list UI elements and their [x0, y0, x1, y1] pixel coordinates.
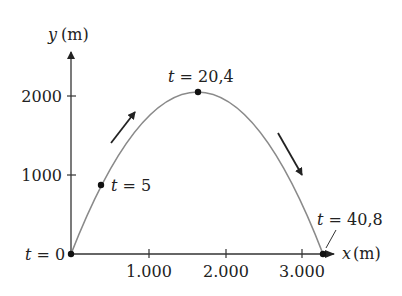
direction-arrow-up	[111, 112, 135, 143]
label-t40-8: t = 40,8	[317, 210, 383, 229]
y-tick-label-1000: 1000	[21, 166, 62, 185]
point-t5	[98, 182, 104, 188]
label-t0: t = 0	[25, 245, 65, 264]
direction-arrow-down	[278, 133, 302, 175]
point-t40-8	[320, 251, 326, 257]
point-t0	[68, 251, 74, 257]
projectile-trajectory-diagram: y(m) x(m) 1000 2000 1.000 2.000 3.000 t …	[0, 0, 402, 296]
label-t20-4: t = 20,4	[168, 67, 234, 86]
x-tick-label-3000: 3.000	[279, 262, 325, 281]
trajectory-curve	[71, 92, 323, 254]
y-tick-label-2000: 2000	[21, 87, 62, 106]
x-tick-label-1000: 1.000	[126, 262, 172, 281]
x-tick-label-2000: 2.000	[203, 262, 249, 281]
leader-line-t40-8	[326, 230, 336, 248]
y-axis-label: y(m)	[47, 25, 89, 44]
point-t20-4	[195, 89, 201, 95]
x-axis-label: x(m)	[342, 244, 381, 263]
label-t5: t = 5	[111, 176, 151, 195]
